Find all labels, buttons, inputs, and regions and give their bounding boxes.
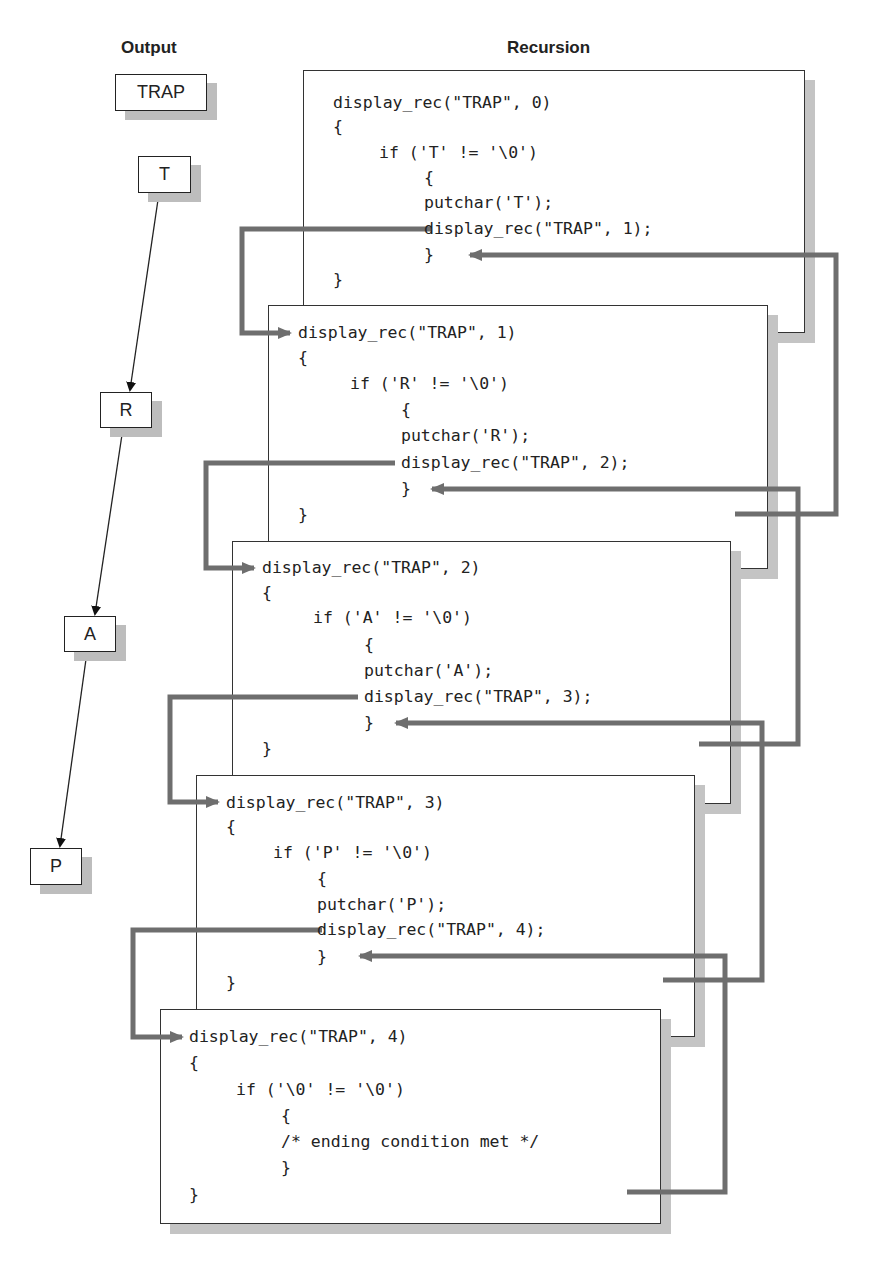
frame-1-open-brace: { [298,346,308,371]
frame-2-header: display_rec("TRAP", 2) [262,556,481,581]
frame-1-header: display_rec("TRAP", 1) [298,321,517,346]
frame-3-inner-open: { [317,867,327,892]
frame-0-body1: putchar('T'); [424,191,553,216]
frame-2-inner-open: { [364,633,374,658]
frame-4-close-brace: } [189,1183,199,1208]
output-char-a: A [64,616,116,652]
frame-1-condition: if ('R' != '\0') [350,372,509,397]
frame-2-body2: display_rec("TRAP", 3); [364,685,592,710]
frame-2-close-brace: } [262,737,272,762]
frame-3-body2: display_rec("TRAP", 4); [317,918,545,943]
frame-0-body2: display_rec("TRAP", 1); [424,217,652,242]
arrow-t-to-r [130,193,159,390]
frame-3-condition: if ('P' != '\0') [273,841,432,866]
frame-1-body2: display_rec("TRAP", 2); [401,451,629,476]
output-char-p: P [30,848,82,885]
arrow-a-to-p [60,652,87,846]
frame-2-condition: if ('A' != '\0') [313,606,472,631]
frame-1-body1: putchar('R'); [401,424,530,449]
frame-3-inner-close: } [317,945,327,970]
frame-4-body1: /* ending condition met */ [281,1130,539,1155]
frame-4-condition: if ('\0' != '\0') [236,1078,405,1103]
output-char-t: T [138,156,191,193]
frame-3-body1: putchar('P'); [317,893,446,918]
frame-1-inner-open: { [401,398,411,423]
frame-4-inner-close: } [281,1156,291,1181]
arrow-r-to-a [95,428,123,614]
frame-0-condition: if ('T' != '\0') [379,141,538,166]
frame-0-close-brace: } [333,268,343,293]
frame-4-header: display_rec("TRAP", 4) [189,1025,408,1050]
frame-4-inner-open: { [281,1104,291,1129]
output-heading: Output [121,38,177,58]
frame-0-inner-open: { [424,166,434,191]
frame-1-close-brace: } [298,503,308,528]
frame-2-body1: putchar('A'); [364,659,493,684]
frame-3-header: display_rec("TRAP", 3) [226,791,445,816]
output-char-r: R [100,392,152,428]
frame-3-open-brace: { [226,815,236,840]
frame-2-open-brace: { [262,581,272,606]
frame-0-inner-close: } [424,243,434,268]
recursion-heading: Recursion [507,38,590,58]
frame-4-open-brace: { [189,1051,199,1076]
frame-0-header: display_rec("TRAP", 0) [333,91,552,116]
frame-0-open-brace: { [333,115,343,140]
frame-3-close-brace: } [226,971,236,996]
frame-2-inner-close: } [364,711,374,736]
output-result-box: TRAP [115,74,207,111]
frame-1-inner-close: } [401,477,411,502]
